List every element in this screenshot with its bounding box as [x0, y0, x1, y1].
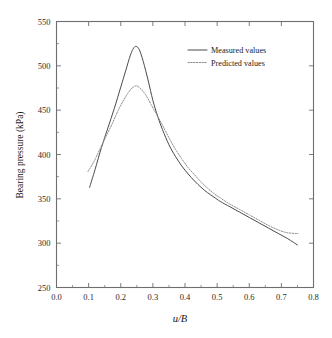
x-tick-label: 0.1 [83, 292, 94, 302]
y-tick-label: 250 [38, 283, 51, 293]
y-tick-label: 300 [38, 238, 51, 248]
x-tick-label: 0.5 [212, 292, 223, 302]
x-tick-label: 0.7 [276, 292, 287, 302]
y-tick-label: 350 [38, 194, 51, 204]
x-tick-label: 0.0 [51, 292, 62, 302]
legend-label-measured-values: Measured values [211, 46, 266, 55]
y-tick-label: 400 [38, 150, 51, 160]
legend-label-predicted-values: Predicted values [211, 59, 265, 68]
chart-figure: 0.00.10.20.30.40.50.60.70.8 250300350400… [0, 0, 332, 338]
y-tick-label: 450 [38, 105, 51, 115]
x-tick-label: 0.2 [115, 292, 126, 302]
x-tick-label: 0.3 [148, 292, 159, 302]
x-tick-label: 0.4 [180, 292, 191, 302]
bearing-pressure-chart: 0.00.10.20.30.40.50.60.70.8 250300350400… [0, 0, 332, 338]
x-tick-label: 0.8 [308, 292, 319, 302]
y-tick-label: 500 [38, 61, 51, 71]
y-axis-title: Bearing pressure (kPa) [15, 111, 26, 198]
y-tick-label: 550 [38, 17, 51, 27]
x-axis-tick-labels: 0.00.10.20.30.40.50.60.70.8 [51, 292, 319, 302]
x-axis-title: u/B [173, 313, 188, 324]
x-tick-label: 0.6 [244, 292, 255, 302]
